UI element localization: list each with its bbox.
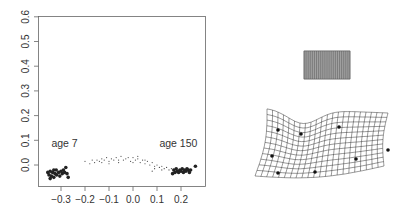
data-point: [161, 166, 162, 167]
data-point: [106, 157, 107, 158]
x-tick-label: −0.3: [51, 194, 71, 205]
deformed-grid: [255, 109, 390, 178]
data-point: [156, 164, 157, 165]
data-point: [104, 159, 105, 160]
landmark-point: [386, 148, 390, 152]
x-tick-label: −0.2: [75, 194, 95, 205]
data-point: [130, 161, 131, 162]
grid-line: [266, 135, 384, 146]
data-point: [189, 168, 193, 172]
data-point: [84, 161, 85, 162]
landmark-point: [313, 170, 317, 174]
data-point: [166, 167, 167, 168]
data-point: [168, 169, 169, 170]
data-point: [152, 171, 153, 172]
data-point: [140, 162, 141, 163]
data-point: [52, 168, 56, 172]
data-point: [164, 168, 165, 169]
x-tick-label: −0.1: [99, 194, 119, 205]
data-point: [94, 162, 95, 163]
data-point: [137, 158, 138, 159]
data-point: [161, 169, 162, 170]
data-point: [135, 159, 136, 160]
data-point: [154, 168, 155, 169]
data-point: [132, 157, 133, 158]
data-point: [111, 158, 112, 159]
data-point: [66, 176, 70, 180]
data-point: [137, 156, 138, 157]
data-point: [101, 162, 102, 163]
data-point: [65, 172, 69, 176]
scatter-plot: 0.00.10.20.30.40.50.6−0.3−0.2−0.10.00.10…: [0, 0, 419, 211]
y-tick-label: 0.2: [20, 108, 31, 122]
annotations: age 7age 150: [51, 137, 197, 149]
y-tick-label: 0.4: [20, 59, 31, 73]
data-point: [123, 159, 124, 160]
x-tick-label: 0.2: [174, 194, 188, 205]
data-point: [132, 162, 133, 163]
data-point: [113, 159, 114, 160]
data-point: [149, 164, 150, 165]
y-tick-label: 0.6: [20, 9, 31, 23]
data-point: [144, 159, 145, 160]
data-point: [92, 159, 93, 160]
data-point: [152, 162, 153, 163]
landmark-point: [337, 125, 341, 129]
data-point: [118, 162, 119, 163]
data-point: [108, 163, 109, 164]
deformation-grids: [255, 51, 390, 178]
plot-frame: [39, 17, 206, 187]
data-point: [128, 157, 129, 158]
reference-grid: [304, 51, 350, 79]
annotation-label: age 150: [159, 137, 197, 149]
landmark-point: [354, 157, 358, 161]
data-point: [48, 177, 52, 181]
data-point: [171, 168, 172, 169]
x-tick-label: 0.0: [126, 194, 140, 205]
y-tick-label: 0.3: [20, 84, 31, 98]
x-tick-label: 0.1: [150, 194, 164, 205]
data-points: [46, 156, 197, 181]
data-point: [154, 166, 155, 167]
data-point: [118, 159, 119, 160]
data-point: [64, 166, 68, 170]
grid-line: [383, 113, 388, 166]
data-point: [99, 161, 100, 162]
data-point: [171, 172, 175, 176]
data-point: [125, 158, 126, 159]
y-tick-label: 0.1: [20, 133, 31, 147]
data-point: [52, 176, 56, 180]
data-point: [101, 158, 102, 159]
data-point: [89, 163, 90, 164]
data-point: [120, 156, 121, 157]
y-tick-label: 0.5: [20, 34, 31, 48]
data-point: [116, 157, 117, 158]
grid-line: [279, 118, 290, 177]
landmark-point: [276, 128, 280, 132]
data-point: [147, 161, 148, 162]
landmark-point: [299, 132, 303, 136]
data-point: [194, 164, 198, 168]
annotation-label: age 7: [51, 137, 77, 149]
data-point: [159, 167, 160, 168]
y-tick-label: 0.0: [20, 158, 31, 172]
data-point: [96, 159, 97, 160]
data-point: [144, 163, 145, 164]
figure: 0.00.10.20.30.40.50.6−0.3−0.2−0.10.00.10…: [0, 0, 419, 211]
landmark-point: [270, 154, 274, 158]
data-point: [142, 159, 143, 160]
landmark-point: [276, 171, 280, 175]
data-point: [108, 161, 109, 162]
